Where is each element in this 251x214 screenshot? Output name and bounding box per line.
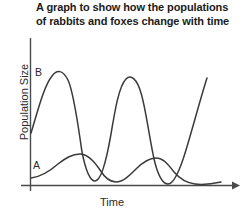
curve-a-path — [31, 154, 221, 184]
curve-label-a: A — [33, 159, 40, 171]
population-graph-figure: A graph to show how the populations of r… — [0, 0, 251, 214]
x-axis-label: Time — [100, 196, 124, 208]
curve-b-path — [31, 71, 207, 184]
arrow-right-icon — [232, 182, 240, 190]
curve-label-b: B — [35, 66, 42, 78]
y-axis-label: Population Size — [18, 42, 30, 162]
plot-area — [0, 0, 251, 214]
